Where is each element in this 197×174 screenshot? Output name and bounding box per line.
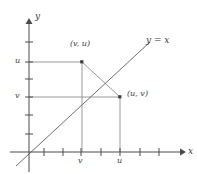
guide-lines [29, 62, 120, 152]
x-axis-label: x [188, 147, 193, 156]
point-v-u-label: (v, u) [70, 40, 90, 48]
x-axis-arrow-icon [180, 149, 186, 156]
point-u-v-marker [118, 95, 121, 98]
x-tick-label-v: v [78, 157, 83, 165]
point-u-v-label: (u, v) [127, 90, 148, 98]
identity-line-label: y = x [146, 36, 169, 45]
y-axis-arrow-icon [26, 18, 33, 24]
coordinate-plane-figure: y x u v v u (v, u) (u, v) y = x [0, 0, 197, 174]
figure-canvas [0, 0, 197, 174]
x-tick-label-u: u [117, 157, 122, 165]
y-axis-label: y [35, 12, 40, 21]
point-v-u-marker [80, 60, 83, 63]
y-tick-label-u: u [15, 57, 20, 65]
y-tick-label-v: v [15, 92, 20, 100]
connector-line [82, 62, 120, 97]
